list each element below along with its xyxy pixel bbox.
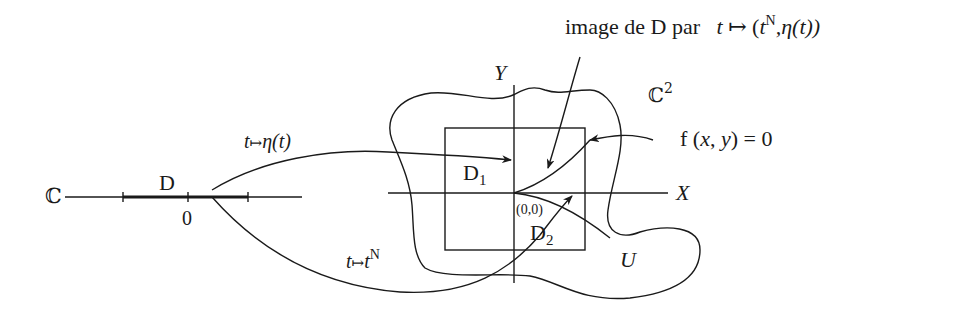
y-axis-label: Y xyxy=(494,62,506,84)
curve-upper-branch xyxy=(514,140,590,193)
diagram-lines xyxy=(0,0,957,316)
origin-label-line: 0 xyxy=(182,208,192,228)
map-power-label: t↦tN xyxy=(346,248,380,271)
caption: image de D par t ↦ (tN,η(t)) xyxy=(565,14,820,38)
curve-equation: f (x, y) = 0 f (x, y) = 0 xyxy=(680,128,772,150)
diagram: image de D par t ↦ (tN,η(t)) ℂ D 0 t↦η(t… xyxy=(0,0,957,316)
complex-line-label: ℂ xyxy=(45,186,62,207)
caption-pointer xyxy=(548,57,580,168)
disc-label: D xyxy=(159,172,175,194)
x-axis-label: X xyxy=(676,182,689,204)
neighborhood-u-label: U xyxy=(620,249,636,271)
plane-label: ℂ2 xyxy=(648,81,673,105)
map-eta-label: t↦η(t) xyxy=(244,131,291,151)
origin-label-plane: (0,0) xyxy=(516,203,543,217)
polydisc-square xyxy=(445,128,585,250)
region-d2-label: D2 xyxy=(530,222,553,248)
region-d1-label: D1 xyxy=(463,162,486,188)
